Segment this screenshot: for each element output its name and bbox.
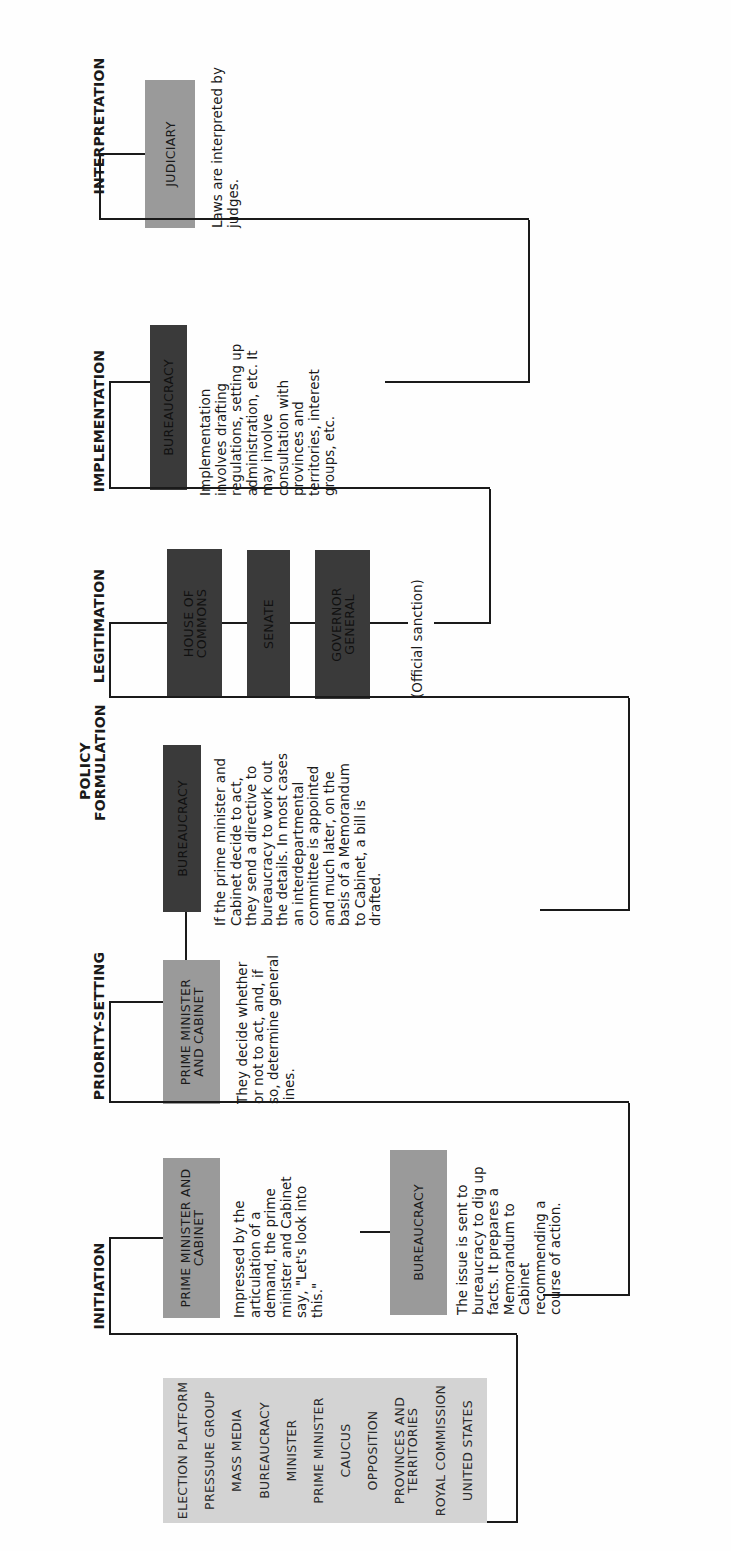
senate-box: SENATE: [247, 550, 290, 698]
connector-line: [109, 488, 490, 490]
policy-process-diagram: INITIATION PRIORITY-SETTING POLICY FORMU…: [0, 0, 731, 1551]
stage-header-policy-formulation: POLICY FORMULATION: [78, 721, 108, 821]
connector-line: [628, 698, 630, 911]
judiciary-box: JUDICIARY: [145, 80, 195, 228]
stage-header-initiation: INITIATION: [92, 1236, 107, 1336]
connector-line: [487, 1522, 517, 1524]
connector-line: [222, 623, 247, 625]
connector-line: [434, 623, 489, 625]
house-of-commons-box: HOUSE OF COMMONS: [167, 549, 222, 698]
governor-general-box: GOVERNOR GENERAL: [315, 550, 370, 699]
source-bureaucracy: BUREAUCRACY: [258, 1402, 271, 1499]
source-provinces-and-territories: PROVINCES AND TERRITORIES: [393, 1378, 419, 1523]
source-caucus: CAUCUS: [339, 1423, 352, 1477]
connector-line: [109, 697, 629, 699]
connector-line: [99, 154, 145, 156]
connector-line: [109, 1334, 517, 1336]
connector-line: [109, 382, 150, 384]
initiation-pmc-box: PRIME MINISTER AND CABINET: [163, 1158, 220, 1318]
stage-header-implementation: IMPLEMENTATION: [92, 331, 107, 511]
connector-line: [109, 1002, 163, 1004]
initiation-bureaucracy-description: The issue is sent to bureaucracy to dig …: [455, 1165, 564, 1315]
source-pressure-group: PRESSURE GROUP: [203, 1391, 216, 1510]
policy-bureaucracy-box: BUREAUCRACY: [163, 745, 201, 912]
sources-box: ELECTION PLATFORM PRESSURE GROUP MASS ME…: [163, 1378, 487, 1523]
implementation-bureaucracy-description: Implementation involves drafting regulat…: [198, 331, 338, 496]
connector-line: [489, 489, 491, 624]
source-opposition: OPPOSITION: [366, 1411, 379, 1491]
source-royal-commission: ROYAL COMMISSION: [434, 1385, 447, 1516]
connector-line: [290, 623, 315, 625]
connector-line: [109, 1239, 111, 1335]
judiciary-description: Laws are interpreted by judges.: [210, 58, 241, 228]
priority-pmc-box: PRIME MINISTER AND CABINET: [163, 960, 220, 1104]
connector-line: [99, 155, 101, 220]
connector-line: [109, 1003, 111, 1103]
connector-line: [109, 383, 111, 489]
connector-line: [109, 623, 167, 625]
connector-line: [360, 1232, 390, 1234]
initiation-bureaucracy-box: BUREAUCRACY: [390, 1150, 447, 1315]
source-united-states: UNITED STATES: [461, 1400, 474, 1501]
connector-line: [185, 912, 187, 960]
connector-line: [516, 1335, 518, 1523]
priority-pmc-description: They decide whether or not to act, and, …: [235, 954, 297, 1104]
policy-bureaucracy-description: If the prime minister and Cabinet decide…: [213, 751, 384, 926]
connector-line: [109, 623, 111, 698]
stage-header-priority-setting: PRIORITY-SETTING: [92, 946, 107, 1106]
stage-header-legitimation: LEGITIMATION: [92, 556, 107, 696]
connector-line: [109, 1102, 629, 1104]
initiation-pmc-description: Impressed by the articulation of a deman…: [232, 1168, 325, 1318]
connector-line: [385, 382, 529, 384]
source-minister: MINISTER: [285, 1419, 298, 1481]
connector-line: [543, 1295, 628, 1297]
connector-line: [628, 1103, 630, 1296]
source-mass-media: MASS MEDIA: [230, 1409, 243, 1492]
connector-line: [528, 220, 530, 383]
source-prime-minister: PRIME MINISTER: [312, 1397, 325, 1503]
official-sanction-note: (Official sanction): [410, 548, 426, 698]
connector-line: [99, 219, 529, 221]
source-election-platform: ELECTION PLATFORM: [176, 1382, 189, 1520]
implementation-bureaucracy-box: BUREAUCRACY: [150, 325, 187, 490]
connector-line: [370, 623, 408, 625]
connector-line: [109, 1238, 163, 1240]
connector-line: [540, 910, 628, 912]
